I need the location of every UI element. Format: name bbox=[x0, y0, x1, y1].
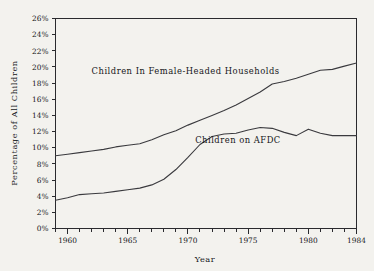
y-tick-label: 2% bbox=[37, 208, 49, 217]
y-tick-label: 6% bbox=[37, 176, 49, 185]
y-tick-label: 18% bbox=[32, 79, 48, 88]
y-tick-label: 22% bbox=[32, 47, 48, 56]
plot-border bbox=[56, 19, 357, 229]
series-lines bbox=[56, 63, 357, 200]
y-tick-label: 26% bbox=[32, 14, 48, 23]
y-tick-label: 12% bbox=[32, 127, 48, 136]
series-labels: Children In Female-Headed HouseholdsChil… bbox=[92, 66, 281, 145]
series-label-1: Children on AFDC bbox=[195, 135, 281, 145]
line-chart: 0%2%4%6%8%10%12%14%16%18%20%22%24%26% 19… bbox=[0, 0, 374, 271]
x-axis-title: Year bbox=[194, 254, 216, 264]
y-axis-title: Percentage of All Children bbox=[9, 60, 19, 186]
x-tick-label: 1980 bbox=[299, 236, 318, 245]
chart-figure: 0%2%4%6%8%10%12%14%16%18%20%22%24%26% 19… bbox=[0, 0, 374, 271]
x-tick-label: 1970 bbox=[179, 236, 198, 245]
y-tick-label: 8% bbox=[37, 160, 49, 169]
series-label-0: Children In Female-Headed Households bbox=[92, 66, 280, 76]
x-axis: 196019651970197519801984 bbox=[56, 229, 367, 245]
x-tick-label: 1984 bbox=[347, 236, 366, 245]
x-tick-label: 1960 bbox=[58, 236, 77, 245]
x-tick-label: 1965 bbox=[118, 236, 137, 245]
y-tick-label: 20% bbox=[32, 63, 48, 72]
y-tick-label: 0% bbox=[37, 224, 49, 233]
y-tick-label: 4% bbox=[37, 192, 49, 201]
y-tick-label: 16% bbox=[32, 95, 48, 104]
y-axis: 0%2%4%6%8%10%12%14%16%18%20%22%24%26% bbox=[32, 14, 55, 233]
plot-frame bbox=[56, 19, 357, 229]
y-tick-label: 24% bbox=[32, 30, 48, 39]
y-tick-label: 10% bbox=[32, 143, 48, 152]
y-tick-label: 14% bbox=[32, 111, 48, 120]
x-tick-label: 1975 bbox=[239, 236, 258, 245]
